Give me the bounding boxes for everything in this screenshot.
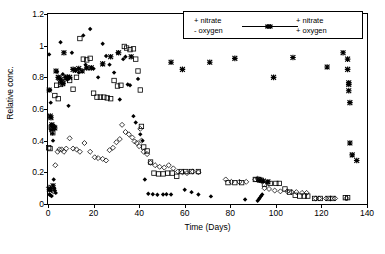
data-point-cross-asterisk bbox=[349, 152, 355, 158]
data-point-filled-diamond bbox=[49, 100, 53, 104]
legend-left-line1: + nitrate bbox=[194, 16, 223, 26]
data-point-filled-diamond bbox=[134, 120, 138, 124]
x-tick-label: 140 bbox=[360, 209, 374, 218]
data-point-filled-diamond bbox=[107, 62, 111, 66]
data-point-cross-asterisk bbox=[232, 56, 238, 62]
chart-figure: Relative conc. 00.20.40.60.811.2 0204060… bbox=[0, 0, 385, 254]
data-point-filled-diamond bbox=[112, 70, 116, 74]
y-axis-label-container: Relative conc. bbox=[0, 0, 20, 205]
data-point-open-square bbox=[283, 187, 287, 191]
data-point-open-diamond bbox=[166, 163, 171, 168]
data-point-cross-asterisk bbox=[79, 68, 85, 74]
data-point-filled-diamond bbox=[140, 138, 144, 142]
data-point-filled-diamond bbox=[51, 177, 55, 181]
series-cross-asterisk bbox=[46, 50, 359, 193]
data-point-filled-diamond bbox=[136, 77, 140, 81]
data-point-open-diamond bbox=[100, 156, 105, 161]
data-point-open-diamond bbox=[114, 140, 119, 145]
data-point-cross-asterisk bbox=[347, 140, 353, 146]
series-open-square bbox=[46, 36, 349, 200]
data-point-filled-diamond bbox=[131, 114, 135, 118]
data-point-filled-diamond bbox=[151, 192, 155, 196]
data-point-cross-asterisk bbox=[88, 65, 94, 71]
data-point-filled-diamond bbox=[146, 192, 150, 196]
data-point-filled-diamond bbox=[70, 51, 74, 55]
y-axis-label: Relative conc. bbox=[5, 45, 15, 141]
data-point-open-square bbox=[74, 75, 78, 79]
data-point-filled-diamond bbox=[155, 193, 159, 197]
y-tick-label: 0.2 bbox=[32, 168, 44, 177]
data-point-open-square bbox=[138, 88, 142, 92]
data-point-cross-asterisk bbox=[345, 56, 351, 62]
data-point-cross-asterisk bbox=[60, 81, 66, 87]
data-point-cross-asterisk bbox=[180, 67, 186, 73]
x-tick-label: 80 bbox=[226, 209, 235, 218]
data-point-cross-asterisk bbox=[52, 125, 58, 131]
data-point-filled-diamond bbox=[138, 132, 142, 136]
data-point-filled-diamond bbox=[118, 97, 122, 101]
legend-sample-markers bbox=[264, 22, 273, 31]
data-point-cross-asterisk bbox=[340, 50, 346, 56]
data-point-filled-diamond bbox=[196, 192, 200, 196]
data-points-layer bbox=[48, 14, 367, 204]
y-tick-label: 0.4 bbox=[32, 136, 44, 145]
data-point-cross-asterisk bbox=[116, 50, 122, 56]
legend-right-line2: + oxygen bbox=[296, 26, 327, 36]
x-tick-mark bbox=[139, 204, 140, 208]
data-point-filled-diamond bbox=[209, 194, 213, 198]
data-point-open-diamond bbox=[184, 171, 189, 176]
data-point-cross-asterisk bbox=[324, 64, 330, 70]
data-point-cross-asterisk bbox=[271, 75, 277, 81]
legend-left-line2: - oxygen bbox=[194, 26, 223, 36]
x-tick-label: 20 bbox=[89, 209, 98, 218]
data-point-filled-diamond bbox=[243, 197, 247, 201]
plot-area: 00.20.40.60.811.2 020406080100120140 bbox=[47, 13, 368, 205]
data-point-open-diamond bbox=[267, 186, 272, 191]
data-point-filled-diamond bbox=[183, 188, 187, 192]
data-point-cross-asterisk bbox=[346, 82, 352, 88]
x-tick-label: 60 bbox=[180, 209, 189, 218]
data-point-open-diamond bbox=[64, 146, 69, 151]
data-point-open-diamond bbox=[53, 163, 58, 168]
data-point-cross-asterisk bbox=[100, 61, 106, 67]
series-open-diamond bbox=[46, 122, 349, 201]
x-tick-mark bbox=[94, 204, 95, 208]
y-tick-label: 1.2 bbox=[32, 10, 44, 19]
data-point-filled-diamond bbox=[66, 104, 70, 108]
data-point-open-diamond bbox=[82, 141, 87, 146]
data-point-open-square bbox=[136, 69, 140, 73]
data-point-open-diamond bbox=[120, 122, 125, 127]
data-point-filled-diamond bbox=[96, 75, 100, 79]
data-point-open-square bbox=[112, 78, 116, 82]
data-point-cross-asterisk bbox=[207, 59, 213, 65]
data-point-cross-asterisk bbox=[47, 187, 53, 193]
data-point-open-square bbox=[165, 171, 169, 175]
data-point-open-diamond bbox=[278, 189, 283, 194]
data-point-open-square bbox=[134, 57, 138, 61]
data-point-cross-asterisk bbox=[354, 158, 360, 164]
x-tick-mark bbox=[321, 204, 322, 208]
x-tick-mark bbox=[276, 204, 277, 208]
data-point-open-square bbox=[170, 171, 174, 175]
data-point-filled-diamond bbox=[169, 192, 173, 196]
data-point-open-diamond bbox=[88, 149, 93, 154]
data-point-filled-diamond bbox=[104, 54, 108, 58]
x-tick-mark bbox=[185, 204, 186, 208]
legend-entry-left: + nitrate - oxygen bbox=[194, 16, 223, 35]
data-point-open-square bbox=[161, 172, 165, 176]
chart-legend: + nitrate - oxygen + nitrate + oxygen bbox=[183, 11, 363, 39]
data-point-open-diamond bbox=[117, 137, 122, 142]
data-point-cross-asterisk bbox=[346, 88, 352, 94]
data-point-open-square bbox=[175, 174, 179, 178]
data-point-open-square bbox=[152, 171, 156, 175]
data-point-filled-diamond bbox=[164, 192, 168, 196]
data-point-open-diamond bbox=[104, 158, 109, 163]
data-point-filled-diamond bbox=[100, 42, 104, 46]
data-point-filled-diamond bbox=[47, 52, 51, 56]
data-point-cross-asterisk bbox=[128, 54, 134, 60]
x-tick-label: 0 bbox=[46, 209, 51, 218]
data-point-cross-asterisk bbox=[108, 54, 114, 60]
x-tick-label: 120 bbox=[314, 209, 328, 218]
data-point-open-square bbox=[71, 87, 75, 91]
data-point-open-diamond bbox=[313, 196, 318, 201]
